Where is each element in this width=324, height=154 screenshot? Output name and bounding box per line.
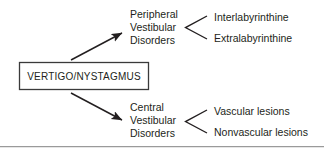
diagram-canvas: VERTIGO/NYSTAGMUS Peripheral Vestibular … xyxy=(0,0,324,154)
leaf-label-vascular-lesions: Vascular lesions xyxy=(214,105,290,118)
arrow-to-central xyxy=(71,93,122,120)
branch-label-central-line2: Vestibular xyxy=(130,114,176,127)
leaf-label-extralabyrinthine: Extralabyrinthine xyxy=(214,32,292,45)
fork-central xyxy=(186,110,208,133)
branch-label-central: Central Vestibular Disorders xyxy=(130,101,176,141)
fork-peripheral xyxy=(186,16,208,39)
branch-label-peripheral: Peripheral Vestibular Disorders xyxy=(130,8,178,48)
branch-label-peripheral-line2: Vestibular xyxy=(130,21,178,34)
root-node-label: VERTIGO/NYSTAGMUS xyxy=(19,62,149,90)
leaf-label-nonvascular-lesions: Nonvascular lesions xyxy=(214,126,308,139)
branch-label-central-line1: Central xyxy=(130,101,176,114)
branch-label-peripheral-line1: Peripheral xyxy=(130,8,178,21)
branch-label-central-line3: Disorders xyxy=(130,127,176,140)
leaf-label-interlabyrinthine: Interlabyrinthine xyxy=(214,11,289,24)
branch-label-peripheral-line3: Disorders xyxy=(130,34,178,47)
arrow-to-peripheral xyxy=(71,33,122,60)
